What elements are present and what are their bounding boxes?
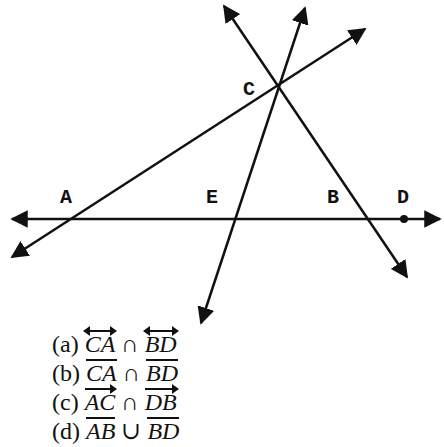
line-symbol <box>85 326 116 336</box>
point-label-D: D <box>397 188 409 208</box>
operator: ∩ <box>121 389 138 415</box>
option-key: (b) <box>52 360 80 386</box>
option-d[interactable]: (d) AB∪BD <box>52 417 179 446</box>
operator: ∩ <box>121 331 138 357</box>
option-key: (c) <box>52 389 79 415</box>
segment-symbol <box>147 413 179 423</box>
segment-symbol <box>86 355 117 365</box>
ray-symbol <box>145 384 177 394</box>
option-key: (d) <box>52 418 80 444</box>
line-BC <box>224 6 407 277</box>
ray-symbol <box>85 384 116 394</box>
line-AC <box>12 29 365 257</box>
segment-symbol <box>86 413 115 423</box>
point-label-E: E <box>206 188 218 208</box>
line-EC <box>201 8 305 323</box>
point-label-C: C <box>243 80 255 100</box>
point-label-A: A <box>60 188 72 208</box>
answer-options: (a) CA∩BD (b) CA∩BD (c) AC∩DB (d) AB∪BD <box>52 330 179 446</box>
point-label-B: B <box>327 188 339 208</box>
segment-symbol <box>146 355 178 365</box>
line-symbol <box>145 326 177 336</box>
operator: ∪ <box>121 418 141 444</box>
option-key: (a) <box>52 331 79 357</box>
operator: ∩ <box>123 360 140 386</box>
point-D-dot <box>400 215 408 223</box>
